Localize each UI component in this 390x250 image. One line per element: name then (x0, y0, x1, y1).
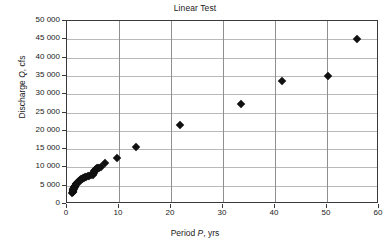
x-axis-tick-labels: 0102030405060 (0, 204, 390, 224)
y-tick-mark (62, 148, 66, 149)
x-tick-mark (118, 204, 119, 208)
y-tick-mark (62, 185, 66, 186)
x-tick-mark (170, 204, 171, 208)
y-axis-tick-labels: 05 00010 00015 00020 00025 00030 00035 0… (0, 20, 390, 203)
y-tick-label: 45 000 (0, 33, 60, 42)
y-tick-label: 15 000 (0, 143, 60, 152)
y-tick-label: 5 000 (0, 180, 60, 189)
x-tick-label: 40 (254, 208, 294, 217)
y-tick-mark (62, 93, 66, 94)
x-tick-mark (378, 204, 379, 208)
chart-title: Linear Test (0, 3, 390, 13)
y-tick-label: 35 000 (0, 70, 60, 79)
x-axis-title: Period P, yrs (0, 228, 390, 238)
y-tick-mark (62, 20, 66, 21)
y-tick-mark (62, 57, 66, 58)
x-tick-mark (274, 204, 275, 208)
y-tick-label: 10 000 (0, 161, 60, 170)
y-tick-mark (62, 112, 66, 113)
y-tick-label: 30 000 (0, 88, 60, 97)
chart-container: Linear Test 05 00010 00015 00020 00025 0… (0, 0, 390, 250)
y-tick-label: 40 000 (0, 52, 60, 61)
x-tick-label: 50 (306, 208, 346, 217)
x-tick-label: 60 (358, 208, 390, 217)
y-axis-title: Discharge Q, cfs (17, 17, 27, 157)
x-tick-label: 10 (98, 208, 138, 217)
y-tick-label: 25 000 (0, 107, 60, 116)
y-tick-mark (62, 166, 66, 167)
y-tick-label: 20 000 (0, 125, 60, 134)
x-tick-label: 0 (46, 208, 86, 217)
x-tick-label: 30 (202, 208, 242, 217)
x-tick-label: 20 (150, 208, 190, 217)
y-tick-mark (62, 38, 66, 39)
x-tick-mark (222, 204, 223, 208)
y-tick-mark (62, 75, 66, 76)
x-tick-mark (66, 204, 67, 208)
y-tick-label: 50 000 (0, 15, 60, 24)
x-tick-mark (326, 204, 327, 208)
y-tick-mark (62, 130, 66, 131)
